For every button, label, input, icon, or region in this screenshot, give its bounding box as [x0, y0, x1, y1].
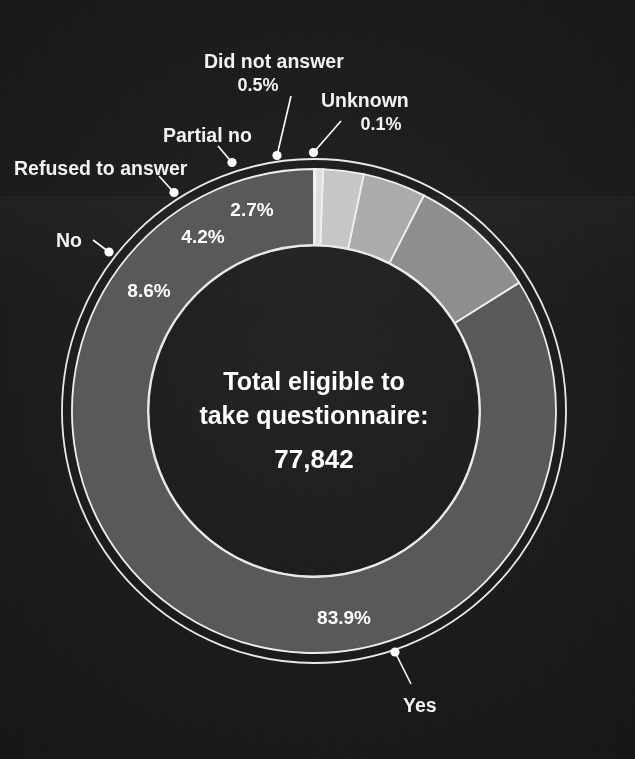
callout-dot-refused [169, 188, 178, 197]
slice-value-partial-no: 2.7% [230, 199, 273, 220]
callout-dot-yes [390, 647, 399, 656]
callout-no [93, 240, 114, 257]
donut-slice-unknown[interactable] [314, 169, 316, 245]
callout-dot-unknown [309, 148, 318, 157]
callout-pct-did-not-answer: 0.5% [237, 75, 278, 95]
slice-value-refused: 4.2% [181, 226, 224, 247]
callout-did-not-answer [272, 96, 291, 160]
callout-label-did-not-answer: Did not answer [204, 50, 344, 72]
callout-partial-no [218, 146, 237, 167]
callout-label-partial-no: Partial no [163, 124, 252, 146]
callout-yes [390, 647, 411, 684]
callout-refused-to-answer [159, 176, 179, 197]
callout-dot-did-not-answer [272, 151, 281, 160]
donut-chart: 8.6% 4.2% 2.7% 83.9% [0, 0, 635, 759]
center-total-value: 77,842 [274, 444, 354, 474]
slice-value-no: 8.6% [127, 280, 170, 301]
callout-label-refused-to-answer: Refused to answer [14, 157, 188, 179]
figure-canvas: 8.6% 4.2% 2.7% 83.9% [0, 0, 635, 759]
callout-label-no: No [56, 229, 82, 251]
callout-label-yes: Yes [403, 694, 437, 716]
center-title-line1: Total eligible to [223, 367, 404, 395]
callout-dot-no [104, 247, 113, 256]
slice-value-yes: 83.9% [317, 607, 371, 628]
callout-unknown [309, 121, 341, 157]
callout-label-unknown: Unknown [321, 89, 409, 111]
center-title-line2: take questionnaire: [199, 401, 428, 429]
callout-pct-unknown: 0.1% [360, 114, 401, 134]
callout-dot-partial-no [227, 158, 236, 167]
